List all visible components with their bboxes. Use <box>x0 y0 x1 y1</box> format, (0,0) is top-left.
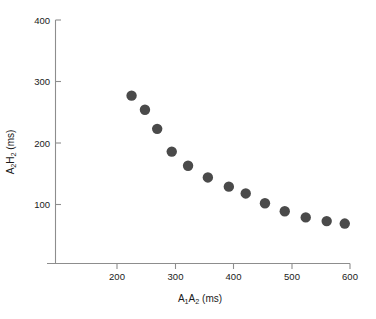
data-point <box>260 198 270 208</box>
y-tick-label-100: 100 <box>34 199 50 210</box>
data-point <box>203 172 213 182</box>
x-axis: 200 300 400 500 600 A1A2 (ms) <box>47 264 358 307</box>
data-point <box>340 218 350 228</box>
x-tick-label-600: 600 <box>342 271 358 282</box>
data-point <box>167 146 177 156</box>
x-tick-label-500: 500 <box>284 271 300 282</box>
data-point <box>140 105 150 115</box>
data-point <box>301 212 311 222</box>
x-axis-ticks <box>117 264 350 270</box>
data-series-points <box>126 90 350 228</box>
scatter-plot-figure: 400 300 200 100 A2H2 (ms) 200 300 400 50… <box>0 0 376 319</box>
chart-canvas: 400 300 200 100 A2H2 (ms) 200 300 400 50… <box>0 0 376 319</box>
data-point <box>152 124 162 134</box>
y-axis-ticks <box>56 20 62 205</box>
data-point <box>322 216 332 226</box>
data-point <box>224 181 234 191</box>
y-axis: 400 300 200 100 A2H2 (ms) <box>5 15 61 264</box>
y-tick-label-300: 300 <box>34 76 50 87</box>
data-point <box>126 90 136 100</box>
x-tick-label-200: 200 <box>109 271 125 282</box>
x-tick-label-300: 300 <box>168 271 184 282</box>
y-tick-label-400: 400 <box>34 15 50 26</box>
y-tick-label-200: 200 <box>34 138 50 149</box>
y-axis-title: A2H2 (ms) <box>5 130 18 175</box>
y-axis-title-unit: (ms) <box>5 130 16 153</box>
x-tick-label-400: 400 <box>226 271 242 282</box>
x-axis-title: A1A2 (ms) <box>178 293 222 306</box>
data-point <box>280 206 290 216</box>
data-point <box>183 161 193 171</box>
y-axis-title-b: H <box>5 156 16 163</box>
y-axis-tick-labels: 400 300 200 100 <box>34 15 50 211</box>
data-point <box>241 188 251 198</box>
x-axis-title-unit: (ms) <box>199 293 222 304</box>
x-axis-tick-labels: 200 300 400 500 600 <box>109 271 358 282</box>
